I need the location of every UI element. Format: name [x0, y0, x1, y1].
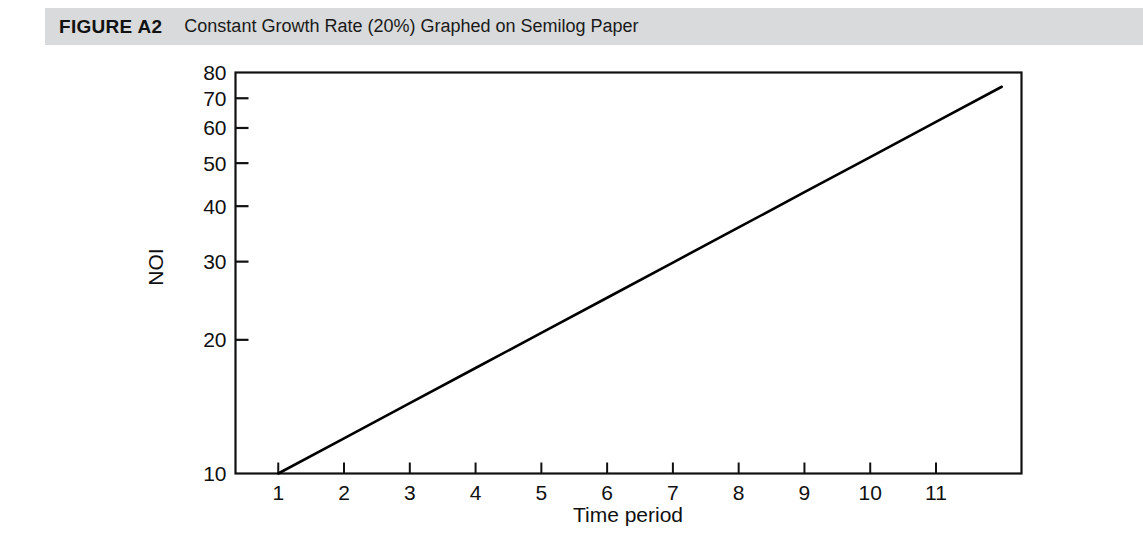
y-axis-tick-label: 80: [203, 61, 226, 84]
x-axis-tick-label: 7: [667, 481, 679, 504]
x-axis-title: Time period: [573, 503, 683, 526]
x-axis-tick-labels: 1234567891011: [272, 481, 946, 504]
figure-page: FIGURE A2 Constant Growth Rate (20%) Gra…: [0, 0, 1143, 535]
figure-label: FIGURE A2: [59, 16, 162, 38]
plot-border: [236, 73, 1022, 474]
figure-header-band: FIGURE A2 Constant Growth Rate (20%) Gra…: [45, 8, 1143, 45]
y-axis-tick-label: 30: [203, 250, 226, 273]
data-series-group: [278, 87, 1002, 474]
y-axis-ticks: [236, 98, 249, 340]
x-axis-tick-label: 4: [470, 481, 482, 504]
y-axis-tick-label: 10: [203, 462, 226, 485]
x-axis-ticks: [278, 463, 936, 474]
y-axis-title: NOI: [144, 248, 167, 285]
y-axis-tick-label: 60: [203, 116, 226, 139]
y-axis-tick-label: 40: [203, 195, 226, 218]
x-axis-tick-label: 3: [404, 481, 416, 504]
x-axis-tick-label: 8: [733, 481, 745, 504]
y-axis-tick-label: 20: [203, 328, 226, 351]
x-axis-tick-label: 11: [925, 481, 947, 504]
data-series-line: [278, 87, 1002, 474]
x-axis-tick-label: 5: [536, 481, 548, 504]
y-axis-tick-label: 70: [203, 87, 226, 110]
y-axis-tick-labels: 1020304050607080: [203, 61, 226, 485]
figure-caption: Constant Growth Rate (20%) Graphed on Se…: [184, 16, 638, 37]
x-axis-tick-label: 2: [338, 481, 350, 504]
x-axis-tick-label: 1: [272, 481, 284, 504]
semilog-chart: 1020304050607080 1234567891011 Time peri…: [0, 45, 1143, 535]
x-axis-tick-label: 9: [799, 481, 811, 504]
chart-canvas: 1020304050607080 1234567891011 Time peri…: [0, 45, 1143, 535]
x-axis-tick-label: 6: [601, 481, 613, 504]
x-axis-tick-label: 10: [859, 481, 882, 504]
plot-frame: [236, 73, 1022, 474]
y-axis-tick-label: 50: [203, 152, 226, 175]
